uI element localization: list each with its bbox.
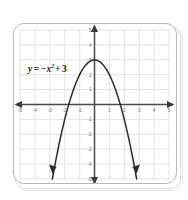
y-tick-label: 5 [89,28,92,33]
x-tick-label: -1 [78,108,83,113]
figure-root: -5 -4 -3 -2 -1 1 2 3 4 5 5 4 3 2 [0,0,188,200]
y-tick-label: -1 [87,117,92,122]
y-tick-label: -3 [87,147,92,152]
coordinate-plane-svg: -5 -4 -3 -2 -1 1 2 3 4 5 5 4 3 2 [14,24,177,184]
y-tick-label: -4 [87,162,92,167]
x-tick-label: 4 [153,108,156,113]
x-tick-label: -3 [48,108,53,113]
axis-lines [17,27,173,183]
y-tick-label: -5 [87,177,92,182]
equation-constant: 3 [62,64,67,74]
x-tick-label: -5 [18,108,23,113]
equation-label: y=−x2+3 [27,63,67,74]
plot-area: -5 -4 -3 -2 -1 1 2 3 4 5 5 4 3 2 [14,24,177,184]
equation-plus: + [55,64,60,74]
x-tick-label: -4 [33,108,38,113]
x-tick-label: 2 [123,108,126,113]
x-tick-label: 1 [108,108,111,113]
y-tick-label: 2 [89,73,92,78]
y-axis-arrow-down [91,177,98,184]
equation-minus: − [41,64,46,74]
y-tick-label: 1 [89,87,92,92]
y-axis-arrow-up [91,25,98,33]
x-tick-label: 5 [168,108,171,113]
graph-card: -5 -4 -3 -2 -1 1 2 3 4 5 5 4 3 2 [13,23,177,184]
y-tick-label: 4 [89,43,92,48]
equation-exponent: 2 [50,63,54,69]
x-tick-label: 3 [138,108,141,113]
equation-y: y [27,64,33,74]
equation-equals: = [34,64,39,74]
y-tick-label: -2 [87,132,92,137]
